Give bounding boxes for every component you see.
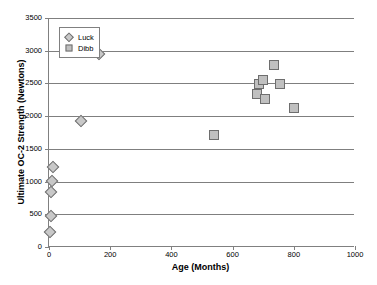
x-axis-tick-label: 400 xyxy=(165,251,178,259)
data-point-luck xyxy=(46,174,59,187)
scatter-chart: Ultimate OC-2 Strength (Newtons) Age (Mo… xyxy=(0,0,377,285)
legend-item-label: Luck xyxy=(78,33,94,42)
gridline-horizontal xyxy=(49,182,354,183)
x-axis-tick-label: 800 xyxy=(288,251,301,259)
legend-item-luck: Luck xyxy=(64,32,94,42)
diamond-marker-icon xyxy=(64,32,74,42)
gridline-horizontal xyxy=(49,18,354,19)
y-axis-tick xyxy=(45,116,49,117)
data-point-luck xyxy=(44,210,57,223)
y-axis-tick-label: 500 xyxy=(29,210,42,218)
y-axis-tick-label: 1500 xyxy=(25,145,42,153)
gridline-horizontal xyxy=(49,214,354,215)
gridline-horizontal xyxy=(49,83,354,84)
data-point-luck xyxy=(47,160,60,173)
y-axis-tick-label: 3000 xyxy=(25,47,42,55)
gridline-horizontal xyxy=(49,116,354,117)
data-point-dibb xyxy=(289,103,299,113)
legend: LuckDibb xyxy=(59,27,100,58)
data-point-dibb xyxy=(209,130,219,140)
y-axis-tick-label: 0 xyxy=(38,243,42,251)
gridline-horizontal xyxy=(49,149,354,150)
square-marker-icon xyxy=(64,43,74,53)
x-axis-tick-label: 0 xyxy=(47,251,51,259)
y-axis-tick xyxy=(45,18,49,19)
y-axis-tick-label: 3500 xyxy=(25,14,42,22)
data-point-luck xyxy=(43,225,56,238)
x-axis-title: Age (Months) xyxy=(48,262,353,272)
x-axis-tick-label: 1000 xyxy=(347,251,364,259)
x-axis-tick-label: 200 xyxy=(104,251,117,259)
y-axis-tick xyxy=(45,149,49,150)
data-point-dibb xyxy=(275,79,285,89)
data-point-dibb xyxy=(260,94,270,104)
data-point-dibb xyxy=(269,60,279,70)
y-axis-tick xyxy=(45,51,49,52)
legend-item-dibb: Dibb xyxy=(64,43,94,53)
y-axis-tick xyxy=(45,83,49,84)
x-axis-tick-label: 600 xyxy=(226,251,239,259)
y-axis-tick-label: 1000 xyxy=(25,178,42,186)
y-axis-tick-label: 2000 xyxy=(25,112,42,120)
y-axis-tick-label: 2500 xyxy=(25,79,42,87)
data-point-dibb xyxy=(258,75,268,85)
legend-item-label: Dibb xyxy=(78,44,93,53)
